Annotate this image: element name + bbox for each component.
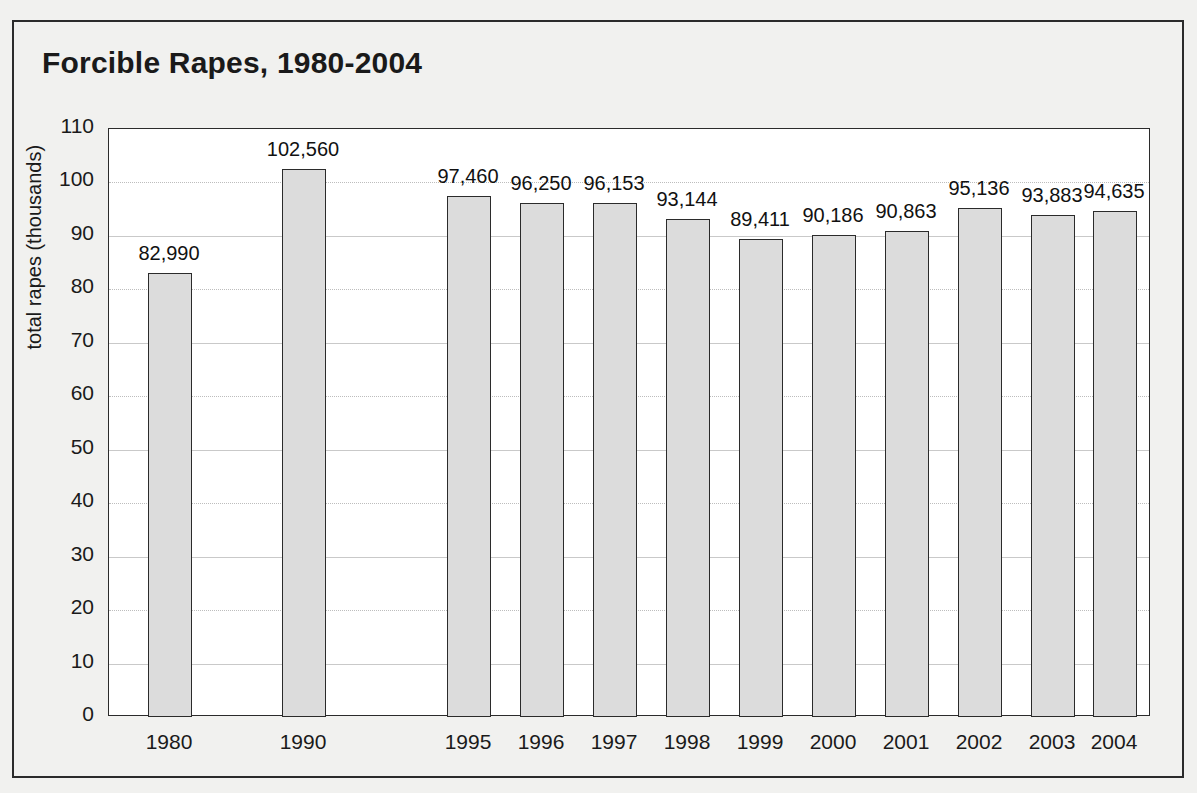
bar — [812, 235, 856, 717]
bar — [148, 273, 192, 717]
bar — [885, 231, 929, 717]
bar — [593, 203, 637, 717]
bar — [1031, 215, 1075, 717]
bar — [520, 203, 564, 718]
chart-title: Forcible Rapes, 1980-2004 — [42, 46, 422, 80]
bar — [1093, 211, 1137, 717]
bar — [958, 208, 1002, 717]
chart-figure: Forcible Rapes, 1980-2004 total rapes (t… — [0, 0, 1197, 793]
bar — [739, 239, 783, 717]
bar — [666, 219, 710, 717]
bar — [447, 196, 491, 717]
bar — [282, 169, 326, 717]
gridline — [109, 182, 1149, 183]
plot-area — [108, 128, 1150, 716]
